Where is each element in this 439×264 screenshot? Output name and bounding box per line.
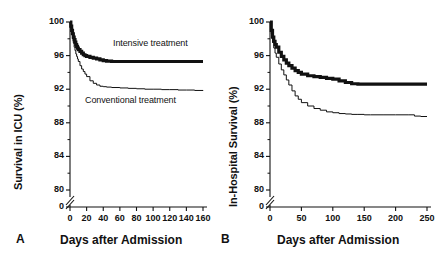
y-tick-label: 96 xyxy=(36,50,64,60)
x-tick-label: 100 xyxy=(319,213,347,223)
axis-break-mark xyxy=(266,196,274,205)
panel-a-intensive-label: Intensive treatment xyxy=(113,38,188,48)
y-tick-label: 96 xyxy=(236,50,264,60)
survival-curves-figure: Survival in ICU (%) Days after Admission… xyxy=(0,0,439,264)
intensive-treatment-curve xyxy=(270,22,427,84)
panel-a: Survival in ICU (%) Days after Admission… xyxy=(0,0,215,264)
y-tick-label: 80 xyxy=(236,184,264,194)
y-tick-label: 80 xyxy=(36,184,64,194)
x-tick-label: 0 xyxy=(256,213,284,223)
panel-b: In-Hospital Survival (%) Days after Admi… xyxy=(215,0,439,264)
panel-a-conventional-label: Conventional treatment xyxy=(85,95,176,105)
y-tick-label: 84 xyxy=(236,150,264,160)
panel-a-y-axis-title: Survival in ICU (%) xyxy=(12,94,24,190)
x-tick-label: 200 xyxy=(382,213,410,223)
x-tick-label: 160 xyxy=(189,213,217,223)
x-tick-label: 50 xyxy=(287,213,315,223)
x-tick-label: 250 xyxy=(413,213,439,223)
y-tick-label: 0 xyxy=(236,201,264,211)
y-tick-label: 88 xyxy=(236,117,264,127)
y-tick-label: 92 xyxy=(36,83,64,93)
panel-a-x-axis-title: Days after Admission xyxy=(60,233,182,247)
y-tick-label: 88 xyxy=(36,117,64,127)
y-tick-label: 84 xyxy=(36,150,64,160)
panel-b-letter: B xyxy=(221,232,230,246)
x-tick-label: 150 xyxy=(350,213,378,223)
y-tick-label: 100 xyxy=(236,16,264,26)
axis-break-mark xyxy=(66,196,74,205)
panel-b-plot xyxy=(215,0,439,264)
y-tick-label: 0 xyxy=(36,201,64,211)
y-tick-label: 92 xyxy=(236,83,264,93)
y-tick-label: 100 xyxy=(36,16,64,26)
panel-b-x-axis-title: Days after Admission xyxy=(277,233,399,247)
panel-a-letter: A xyxy=(16,232,25,246)
